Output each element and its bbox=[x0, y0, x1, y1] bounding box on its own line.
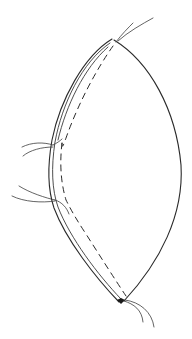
thread-tails-top-2 bbox=[118, 18, 153, 41]
thread-tails-left-upper-3 bbox=[53, 139, 62, 145]
fabric-outline-right bbox=[114, 40, 181, 301]
fabric-outline-left-stitch bbox=[58, 47, 108, 140]
fabric-piece-drawing bbox=[0, 0, 192, 339]
thread-tails-top-1 bbox=[116, 23, 133, 42]
thread-tails-left-upper-2 bbox=[23, 147, 53, 156]
fabric-outline-left-outer bbox=[49, 39, 119, 302]
fabric-outline-left-inner bbox=[53, 43, 121, 299]
seam-line-dashed bbox=[61, 46, 126, 296]
thread-tails-left-lower-2 bbox=[12, 196, 55, 202]
sewing-diagram bbox=[0, 0, 192, 339]
thread-tails-bottom-1 bbox=[124, 301, 143, 322]
thread-tails-left-upper-1 bbox=[22, 143, 53, 147]
thread-tails-bottom-2 bbox=[125, 300, 154, 327]
